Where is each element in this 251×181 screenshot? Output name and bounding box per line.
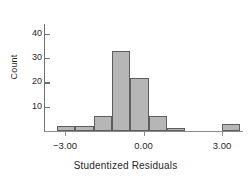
x-tick-label: 3.00	[199, 140, 245, 151]
y-axis-label: Count	[9, 37, 19, 97]
histogram-chart: Count 10203040 −3.000.003.00 Studentized…	[0, 0, 251, 181]
histogram-bars	[44, 24, 243, 131]
y-tick-label-text: 40	[20, 29, 42, 38]
histogram-bar	[112, 51, 130, 131]
y-tick-label: 10	[14, 102, 42, 112]
y-tick-label: 40	[14, 29, 42, 39]
y-tick-label-text: 20	[20, 77, 42, 86]
histogram-bar	[75, 126, 93, 131]
histogram-bar	[57, 126, 75, 131]
y-tick-label-text: 30	[20, 53, 42, 62]
x-tick-mark	[144, 131, 145, 136]
y-tick-label: 20	[14, 77, 42, 87]
histogram-bar	[94, 116, 112, 131]
y-tick-label: 30	[14, 53, 42, 63]
x-tick-label: 0.00	[121, 140, 167, 151]
histogram-bar	[222, 124, 240, 131]
histogram-bar	[167, 128, 185, 131]
x-axis-label: Studentized Residuals	[0, 160, 251, 171]
y-tick-label-text: 10	[20, 102, 42, 111]
histogram-bar	[149, 116, 167, 131]
x-tick-mark	[65, 131, 66, 136]
histogram-bar	[130, 78, 148, 132]
x-tick-label: −3.00	[42, 140, 88, 151]
x-tick-mark	[222, 131, 223, 136]
